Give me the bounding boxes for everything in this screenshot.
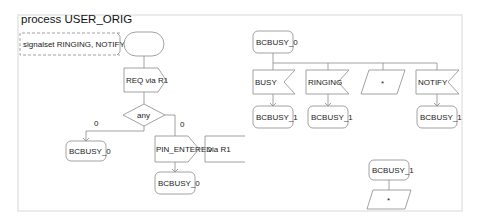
via-comment[interactable]: via R1	[205, 136, 245, 162]
save-label: *	[387, 196, 390, 205]
save-asterisk[interactable]: *	[361, 70, 405, 94]
decision-label: any	[137, 111, 150, 120]
sdl-process-diagram: process USER_ORIG signalset RINGING, NOT…	[0, 0, 478, 222]
state-bcbusy1-bottom[interactable]: BCBUSY_1	[369, 160, 414, 180]
branch-right-line	[165, 115, 175, 136]
input-notify[interactable]: NOTIFY	[416, 70, 459, 94]
process-title: process USER_ORIG	[21, 13, 132, 25]
state-label: BCBUSY_1	[420, 113, 462, 122]
state-notify-next[interactable]: BCBUSY_1	[417, 106, 462, 128]
input-notify-label: NOTIFY	[418, 78, 448, 87]
output-req[interactable]: REQ via R1	[124, 68, 169, 92]
state-bcbusy0-bottom[interactable]: BCBUSY_0	[155, 172, 200, 194]
start-state[interactable]	[124, 32, 164, 56]
branch-left-label: 0	[94, 119, 99, 128]
state-right-label: BCBUSY_0	[256, 38, 298, 47]
state-bcbusy0-right[interactable]: BCBUSY_0	[253, 31, 298, 53]
via-label: via R1	[208, 145, 231, 154]
branch-right-label: 0	[180, 120, 185, 129]
input-busy-label: BUSY	[255, 78, 277, 87]
save-label: *	[381, 79, 384, 88]
state-left-label: BCBUSY_0	[69, 147, 111, 156]
state-label: BCBUSY_1	[311, 113, 353, 122]
output-pin-label: PIN_ENTERED	[156, 145, 212, 154]
branch-left-line	[86, 126, 144, 141]
input-ringing[interactable]: RINGING	[306, 70, 349, 94]
save-asterisk-bottom[interactable]: *	[367, 190, 411, 209]
state-ringing-next[interactable]: BCBUSY_1	[308, 106, 353, 128]
state-label: BCBUSY_1	[256, 113, 298, 122]
input-busy[interactable]: BUSY	[253, 70, 295, 94]
decision-any[interactable]: any	[123, 104, 165, 126]
state-label: BCBUSY_1	[372, 166, 414, 175]
input-ringing-label: RINGING	[308, 78, 342, 87]
output-req-label: REQ via R1	[126, 76, 169, 85]
state-bcbusy0-left[interactable]: BCBUSY_0	[66, 141, 111, 161]
state-busy-next[interactable]: BCBUSY_1	[253, 106, 298, 128]
state-bottom-label: BCBUSY_0	[158, 179, 200, 188]
